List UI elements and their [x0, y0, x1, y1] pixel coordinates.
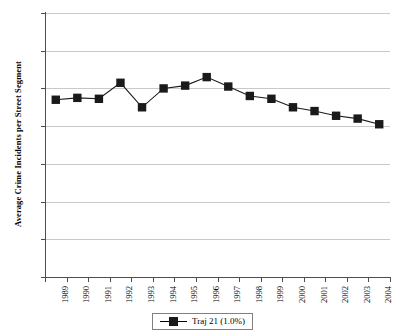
gridline [45, 164, 390, 165]
y-tick-mark [41, 13, 46, 14]
x-tick-mark [347, 277, 348, 282]
x-tick-mark [45, 277, 46, 282]
x-tick-mark [131, 277, 132, 282]
x-tick-mark [261, 277, 262, 282]
data-point-marker [375, 120, 383, 128]
crime-trajectory-chart: Average Crime Incidents per Street Segme… [0, 0, 405, 335]
x-tick-mark [368, 277, 369, 282]
x-tick-label: 1998 [254, 286, 264, 303]
x-tick-mark [218, 277, 219, 282]
x-tick-mark [174, 277, 175, 282]
data-point-marker [267, 95, 275, 103]
x-tick-label: 1999 [275, 286, 285, 303]
x-tick-label: 1990 [81, 286, 91, 303]
data-point-marker [203, 73, 211, 81]
y-tick-mark [41, 88, 46, 89]
data-point-marker [224, 82, 232, 90]
x-tick-label: 1992 [124, 286, 134, 303]
gridline [45, 202, 390, 203]
x-tick-label: 1993 [146, 286, 156, 303]
data-point-marker [138, 103, 146, 111]
data-point-marker [310, 107, 318, 115]
x-tick-label: 2003 [362, 286, 372, 303]
data-point-marker [332, 112, 340, 120]
data-point-marker [116, 79, 124, 87]
x-tick-mark [325, 277, 326, 282]
data-point-marker [73, 94, 81, 102]
x-tick-label: 1995 [189, 286, 199, 303]
y-tick-mark [41, 202, 46, 203]
x-tick-label: 1991 [103, 286, 113, 303]
x-tick-mark [196, 277, 197, 282]
y-tick-mark [41, 51, 46, 52]
x-tick-label: 2001 [319, 286, 329, 303]
x-tick-label: 2002 [340, 286, 350, 303]
x-tick-mark [304, 277, 305, 282]
x-tick-mark [110, 277, 111, 282]
data-point-marker [353, 114, 361, 122]
x-tick-label: 2004 [383, 286, 393, 303]
gridline [45, 239, 390, 240]
x-tick-label: 1989 [60, 286, 70, 303]
data-point-marker [52, 96, 60, 104]
x-tick-label: 1997 [232, 286, 242, 303]
x-tick-label: 1996 [211, 286, 221, 303]
y-axis-title: Average Crime Incidents per Street Segme… [13, 19, 23, 269]
data-point-marker [289, 103, 297, 111]
gridline [45, 88, 390, 89]
x-tick-mark [239, 277, 240, 282]
gridline [45, 126, 390, 127]
data-point-marker [95, 95, 103, 103]
y-tick-mark [41, 126, 46, 127]
x-tick-label: 1994 [168, 286, 178, 303]
x-tick-mark [153, 277, 154, 282]
x-tick-mark [282, 277, 283, 282]
gridline [45, 13, 390, 14]
legend-marker-icon [160, 316, 187, 326]
x-tick-label: 2000 [297, 286, 307, 303]
chart-legend: Traj 21 (1.0%) [152, 313, 253, 330]
x-tick-mark [390, 277, 391, 282]
legend-label: Traj 21 (1.0%) [192, 316, 245, 326]
series-line [56, 77, 379, 124]
y-tick-mark [41, 164, 46, 165]
gridline [45, 51, 390, 52]
x-tick-mark [88, 277, 89, 282]
data-point-marker [246, 92, 254, 100]
x-tick-mark [67, 277, 68, 282]
y-axis-line [45, 12, 46, 278]
y-tick-mark [41, 239, 46, 240]
